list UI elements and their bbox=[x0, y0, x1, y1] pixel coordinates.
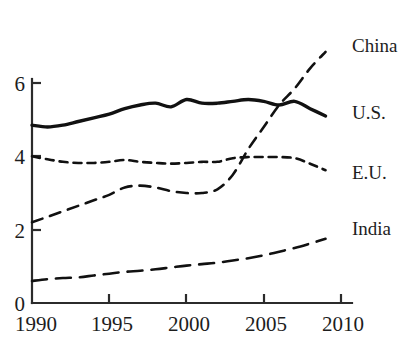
series-line-us bbox=[32, 99, 326, 127]
series-line-china bbox=[32, 52, 326, 223]
x-tick-label-2005: 2005 bbox=[245, 312, 287, 336]
x-tick-label-1995: 1995 bbox=[91, 312, 133, 336]
x-axis-ticks bbox=[109, 294, 341, 303]
series-label-us: U.S. bbox=[352, 102, 386, 123]
y-tick-label-4: 4 bbox=[15, 145, 26, 169]
line-chart-svg: 6 4 2 0 1990 1995 2000 2005 2010 China U… bbox=[0, 0, 415, 353]
x-tick-label-1990: 1990 bbox=[15, 312, 57, 336]
series-label-eu: E.U. bbox=[352, 162, 387, 183]
y-tick-label-2: 2 bbox=[15, 219, 26, 243]
y-axis-tick-labels: 6 4 2 0 bbox=[15, 72, 26, 316]
x-axis-tick-labels: 1990 1995 2000 2005 2010 bbox=[15, 312, 364, 336]
chart-figure: 6 4 2 0 1990 1995 2000 2005 2010 China U… bbox=[0, 0, 415, 353]
series-line-eu bbox=[32, 156, 326, 170]
series-labels-group: China U.S. E.U. India bbox=[352, 35, 398, 239]
data-series-group bbox=[32, 52, 326, 281]
x-tick-label-2000: 2000 bbox=[168, 312, 210, 336]
x-tick-label-2010: 2010 bbox=[322, 312, 364, 336]
series-label-china: China bbox=[352, 35, 398, 56]
series-label-india: India bbox=[352, 218, 392, 239]
series-line-india bbox=[32, 239, 326, 281]
y-tick-label-6: 6 bbox=[15, 72, 26, 96]
